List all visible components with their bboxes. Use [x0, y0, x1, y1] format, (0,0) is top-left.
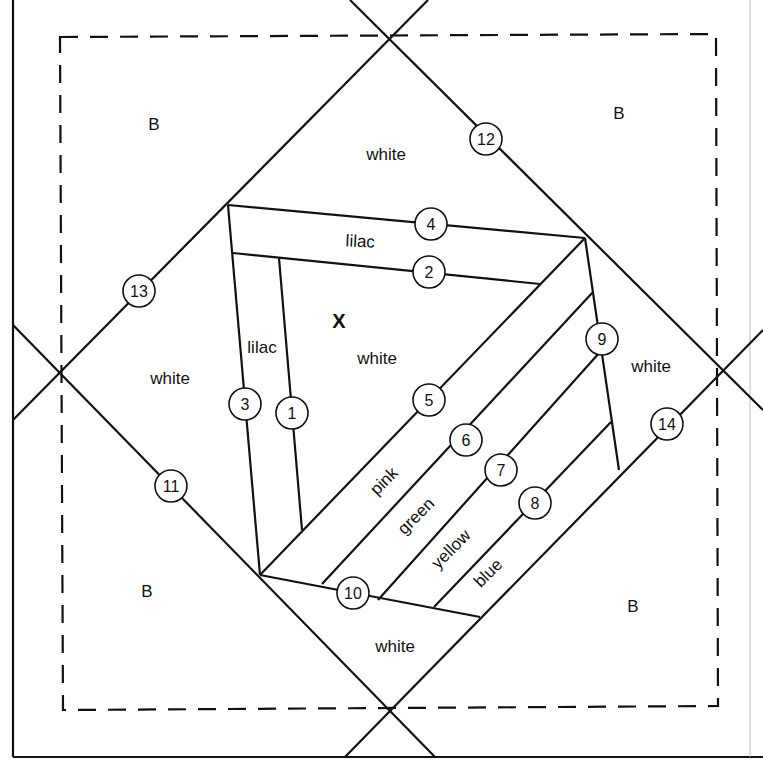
corner-label: B	[148, 115, 159, 134]
piece-number: 3	[241, 396, 250, 413]
fabric-label-yellow: yellow	[428, 525, 475, 572]
fabric-label-white-right: white	[630, 357, 671, 376]
piece-number: 2	[425, 264, 434, 281]
piece-number: 10	[344, 585, 362, 602]
piece-number: 6	[462, 432, 471, 449]
fabric-label-white-left: white	[149, 369, 190, 388]
fabric-label-blue: blue	[470, 555, 506, 591]
corner-label: B	[141, 582, 152, 601]
fabric-label-white-center: white	[356, 349, 397, 368]
piece-number: 5	[425, 392, 434, 409]
fabric-label-lilac-horizontal: lilac	[345, 231, 376, 252]
fabric-label-pink: pink	[366, 463, 402, 499]
piece-number: 8	[531, 495, 540, 512]
quilt-pattern-diagram: B B B B white white white white white li…	[0, 0, 763, 766]
corner-label: B	[613, 104, 624, 123]
piece-number-markers	[123, 123, 683, 609]
fabric-label-lilac-vertical: lilac	[247, 338, 277, 357]
corner-label: B	[627, 597, 638, 616]
fabric-label-white-bottom: white	[374, 637, 415, 656]
piece-number: 7	[497, 462, 506, 479]
piece-number: 11	[163, 478, 180, 495]
piece-number: 1	[288, 405, 297, 422]
center-marker-x: X	[332, 310, 346, 332]
piece-number: 12	[477, 131, 495, 148]
piece-number: 13	[130, 283, 148, 300]
piece-number: 4	[427, 216, 436, 233]
piece-number: 9	[598, 331, 607, 348]
piece-number: 14	[658, 416, 676, 433]
fabric-label-white-top: white	[365, 145, 406, 164]
